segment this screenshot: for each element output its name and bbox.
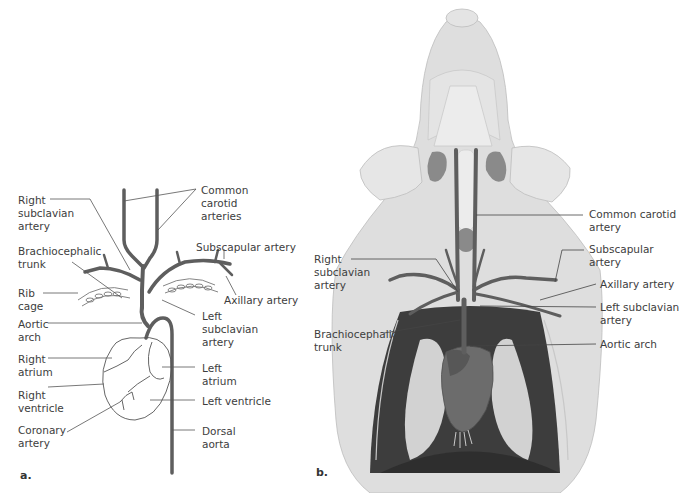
label-brachiocephalic-b: Brachiocephalic trunk [314,328,397,354]
label-axillary-b: Axillary artery [600,278,674,291]
label-subscapular-b: Subscapular artery [589,243,654,269]
label-left-subclavian-b: Left subclavian artery [600,301,679,327]
label-aortic-arch-b: Aortic arch [600,338,657,351]
label-right-subclavian-b: Right subclavian artery [314,253,370,292]
panel-b-letter: b. [316,466,328,479]
label-common-carotid-b: Common carotid artery [589,208,676,234]
panel-b-illustration [0,0,686,493]
